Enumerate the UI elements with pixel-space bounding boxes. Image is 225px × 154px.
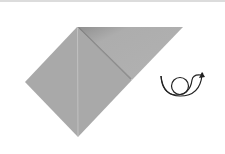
turn-over-icon bbox=[161, 72, 205, 96]
origami-diagram bbox=[0, 0, 225, 154]
center-crease bbox=[78, 28, 79, 136]
